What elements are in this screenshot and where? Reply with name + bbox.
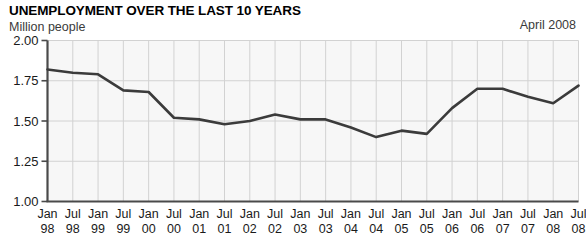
x-axis-tick-label-year: 98	[66, 222, 80, 236]
y-axis-tick-label: 1.00	[13, 194, 38, 209]
x-axis-tick-label-year: 99	[116, 222, 130, 236]
x-axis-tick-label-month: Jan	[37, 207, 57, 221]
y-axis-tick-label: 2.00	[13, 33, 38, 48]
x-axis-tick-label-month: Jul	[520, 207, 536, 221]
x-axis-tick-label-year: 00	[142, 222, 156, 236]
x-axis-tick-label-month: Jul	[419, 207, 435, 221]
x-axis-tick-label-month: Jul	[166, 207, 182, 221]
x-axis-tick-label-month: Jul	[65, 207, 81, 221]
x-axis-tick-label-year: 06	[445, 222, 459, 236]
x-axis-tick-label-year: 02	[243, 222, 257, 236]
x-axis-tick-label-year: 00	[167, 222, 181, 236]
x-axis-tick-label-month: Jul	[318, 207, 334, 221]
x-axis-tick-label-month: Jan	[189, 207, 209, 221]
x-axis-tick-label-year: 98	[41, 222, 55, 236]
x-axis-tick-label-year: 05	[395, 222, 409, 236]
x-axis-tick-label-month: Jul	[469, 207, 485, 221]
x-axis-tick-label-year: 07	[496, 222, 510, 236]
x-axis-tick-label-year: 03	[319, 222, 333, 236]
y-axis-tick-label: 1.25	[13, 154, 38, 169]
x-axis-tick-label-year: 05	[420, 222, 434, 236]
x-axis-tick-label-month: Jan	[341, 207, 361, 221]
line-chart-plot: 2.001.751.501.251.00 Jan98Jul98Jan99Jul9…	[0, 0, 586, 247]
x-axis-tick-labels: Jan98Jul98Jan99Jul99Jan00Jul00Jan01Jul01…	[37, 207, 586, 236]
x-axis-tick-label-month: Jul	[368, 207, 384, 221]
x-axis-tick-label-month: Jan	[88, 207, 108, 221]
x-axis-tick-label-month: Jan	[442, 207, 462, 221]
x-axis-tick-label-year: 07	[521, 222, 535, 236]
y-axis-tick-label: 1.75	[13, 73, 38, 88]
x-axis-tick-label-year: 01	[192, 222, 206, 236]
x-axis-tick-label-month: Jan	[391, 207, 411, 221]
chart-container: UNEMPLOYMENT OVER THE LAST 10 YEARS Mill…	[0, 0, 586, 247]
x-axis-tick-label-year: 04	[344, 222, 358, 236]
x-axis-tick-label-month: Jul	[115, 207, 131, 221]
x-axis-tick-label-month: Jul	[217, 207, 233, 221]
x-axis-tick-label-year: 03	[293, 222, 307, 236]
x-axis-tick-label-month: Jan	[543, 207, 563, 221]
x-axis-tick-label-month: Jul	[267, 207, 283, 221]
x-axis-tick-label-year: 02	[268, 222, 282, 236]
x-axis-tick-label-month: Jan	[290, 207, 310, 221]
y-axis-tick-labels: 2.001.751.501.251.00	[13, 33, 38, 209]
x-axis-tick-label-month: Jan	[139, 207, 159, 221]
x-axis-tick-label-year: 08	[546, 222, 560, 236]
x-axis-tick-label-year: 08	[572, 222, 586, 236]
x-axis-tick-label-year: 06	[470, 222, 484, 236]
x-axis-tick-label-year: 99	[91, 222, 105, 236]
y-axis-tick-label: 1.50	[13, 114, 38, 129]
x-axis-tick-label-month: Jan	[493, 207, 513, 221]
x-axis-tick-label-month: Jul	[571, 207, 586, 221]
x-axis-tick-label-year: 01	[218, 222, 232, 236]
x-axis-tick-label-year: 04	[369, 222, 383, 236]
x-axis-tick-label-month: Jan	[240, 207, 260, 221]
